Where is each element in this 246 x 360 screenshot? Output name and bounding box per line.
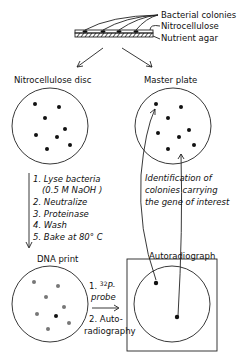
step-4: 4. Wash [33,220,67,230]
identification-line-1: Identification of [145,173,214,183]
master-plate [135,88,211,164]
step-1: 1. Lyse bacteria [33,174,101,184]
title-dna-print: DNA print [37,254,79,264]
identification-arrows [141,109,184,316]
dna-print-disc [12,266,88,342]
title-autoradiograph: Autoradiograph [149,251,215,261]
title-master-plate: Master plate [144,75,197,85]
plate-cross-section [75,15,160,39]
colony-hybridization-diagram: Bacterial colonies Nitrocellulose Nutrie… [0,0,246,360]
step-5: 5. Bake at 80° C [33,232,103,242]
probe-arrow [92,305,119,311]
step-2: 2. Neutralize [33,197,87,207]
probe-step-2: 2. Auto- [89,314,123,324]
label-bacterial-colonies: Bacterial colonies [161,10,237,20]
identification-line-2: colonies carrying [145,185,218,195]
probe-step-2-detail: radiography [84,326,136,336]
label-nitrocellulose: Nitrocellulose [161,21,219,31]
probe-step-1: 1. 32P- [89,280,115,291]
split-arrows [77,48,152,67]
nitrocellulose-disc [12,88,88,164]
title-nitrocellulose-disc: Nitrocellulose disc [14,75,92,85]
label-nutrient-agar: Nutrient agar [161,33,218,43]
probe-step-1-detail: probe [90,292,116,302]
step-1-detail: (0.5 M NaOH ) [42,185,102,195]
step-3: 3. Proteinase [33,209,89,219]
autoradiograph-film [127,259,217,351]
process-steps-arrow [26,173,32,248]
identification-line-3: the gene of interest [145,197,230,207]
